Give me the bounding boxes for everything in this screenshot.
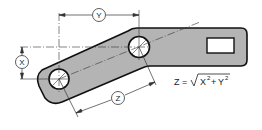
formula-y-exp: 2 — [225, 75, 229, 81]
rectangular-slot — [207, 38, 234, 53]
formula: Z = X 2 + Y 2 — [174, 74, 230, 87]
y-label: Y — [96, 11, 102, 20]
x-label: X — [19, 58, 25, 67]
z-label: Z — [116, 94, 121, 103]
link-plate-diagram: Y X Z Z = X 2 + Y 2 — [0, 0, 262, 130]
formula-lhs: Z = — [174, 77, 187, 87]
formula-x: X — [200, 77, 206, 87]
formula-y: Y — [218, 77, 224, 87]
formula-plus: + — [211, 77, 216, 87]
